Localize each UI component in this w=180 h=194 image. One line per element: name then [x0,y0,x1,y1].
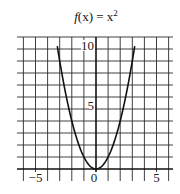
chart: f(x) = x2 −505510 [0,0,180,194]
y-tick-label: 10 [81,38,94,53]
chart-title: f(x) = x2 [74,8,118,24]
x-tick-label: 5 [153,170,160,185]
y-tick-label: 5 [88,98,95,113]
x-tick-label: −5 [29,170,43,185]
x-tick-label: 0 [91,170,98,185]
